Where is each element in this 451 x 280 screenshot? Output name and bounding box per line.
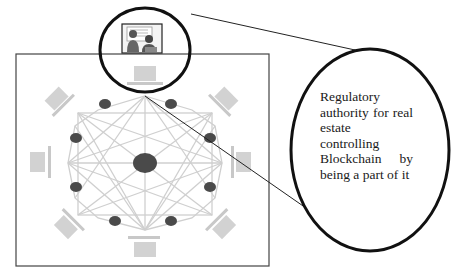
presentation-board-people-icon	[122, 24, 162, 53]
laptop-icon	[128, 236, 160, 257]
laptop-icon	[30, 146, 51, 178]
central-hub-node	[133, 153, 157, 173]
callout-text: Regulatory authority for real estate con…	[320, 89, 413, 182]
peer-node	[70, 182, 82, 192]
peer-node	[109, 216, 121, 226]
laptop-icon	[127, 66, 163, 85]
peer-node	[99, 99, 111, 109]
peer-node	[165, 99, 177, 109]
laptop-icon	[41, 83, 75, 117]
laptop-icon	[231, 146, 251, 178]
peer-node	[165, 216, 177, 226]
laptop-icon	[208, 83, 242, 117]
peer-node	[204, 182, 216, 192]
peer-node	[70, 133, 82, 143]
zoom-tangent-top	[191, 14, 355, 50]
